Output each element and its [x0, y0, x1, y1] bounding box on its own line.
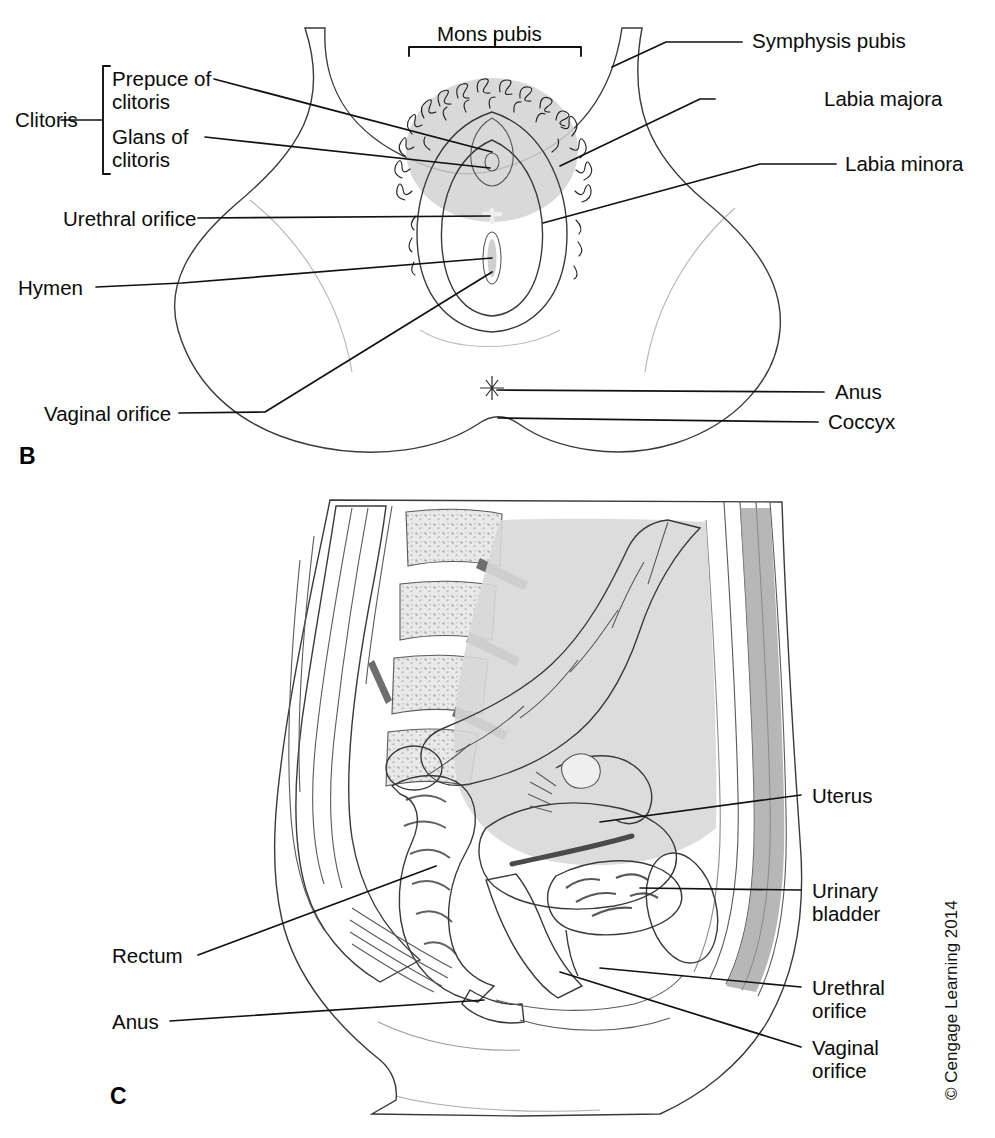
- label-urinary-line2: bladder: [812, 902, 880, 925]
- label-rectum: Rectum: [112, 944, 183, 967]
- copyright-notice: © Cengage Learning 2014: [942, 900, 962, 1100]
- anus-shape-b: [480, 376, 504, 400]
- panel-b-artwork: [61, 28, 836, 452]
- label-glans-line1: Glans of: [112, 125, 188, 148]
- vagina-shape: [486, 874, 582, 998]
- label-glans-line2: clitoris: [112, 148, 170, 171]
- label-prepuce-line1: Prepuce of: [112, 67, 211, 90]
- label-labia-minora: Labia minora: [845, 152, 964, 175]
- label-vaginal-line1: Vaginal: [812, 1036, 879, 1059]
- label-coccyx: Coccyx: [828, 410, 895, 433]
- urinary-bladder-shape: [548, 861, 682, 935]
- anus-shape-c: [462, 990, 524, 1023]
- panel-letter-c: C: [110, 1083, 127, 1110]
- label-mons-pubis: Mons pubis: [437, 22, 542, 45]
- label-urethral-line1: Urethral: [812, 976, 885, 999]
- panel-letter-b: B: [19, 443, 36, 470]
- figure-page: Mons pubis Symphysis pubis Labia majora …: [0, 0, 995, 1138]
- label-hymen: Hymen: [18, 276, 83, 299]
- ovary-shape: [561, 754, 600, 789]
- label-prepuce-line2: clitoris: [112, 90, 170, 113]
- label-labia-majora: Labia majora: [824, 87, 943, 110]
- label-anus-b: Anus: [835, 380, 882, 403]
- label-anus-c: Anus: [112, 1010, 159, 1033]
- label-vaginal-orifice-b: Vaginal orifice: [44, 402, 171, 425]
- label-urinary-line1: Urinary: [812, 879, 878, 902]
- label-uterus: Uterus: [812, 784, 872, 807]
- label-clitoris: Clitoris: [15, 108, 78, 131]
- label-urethral-line2: orifice: [812, 999, 867, 1022]
- label-urethral-orifice-b: Urethral orifice: [63, 207, 196, 230]
- panel-c-artwork: [170, 500, 802, 1116]
- label-vaginal-line2: orifice: [812, 1059, 867, 1082]
- label-symphysis-pubis: Symphysis pubis: [752, 29, 906, 52]
